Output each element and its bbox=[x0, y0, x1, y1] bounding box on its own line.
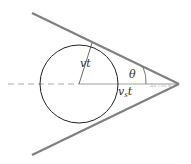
radius-label: vt bbox=[80, 57, 91, 70]
cone-lower-line bbox=[32, 84, 179, 155]
faint-tip-label: Δx cos θ bbox=[150, 82, 171, 88]
source-distance-label: vst bbox=[118, 85, 133, 99]
cone-upper-line bbox=[32, 13, 179, 84]
angle-arc bbox=[143, 67, 146, 84]
angle-label: θ bbox=[129, 68, 136, 81]
mach-cone-diagram: vt θ vst Δx cos θ bbox=[0, 0, 191, 164]
